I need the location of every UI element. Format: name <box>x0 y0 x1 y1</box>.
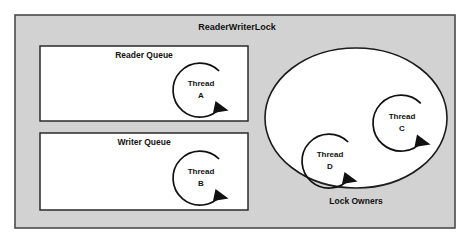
page-title: ReaderWriterLock <box>198 22 276 32</box>
reader-queue-label: Reader Queue <box>115 50 173 60</box>
thread-a-label-line1: Thread <box>188 79 215 88</box>
thread-c-label-line2: C <box>399 124 405 133</box>
diagram-canvas: ReaderWriterLock Reader Queue Thread A W… <box>0 0 470 241</box>
thread-d-label-line2: D <box>327 162 333 171</box>
thread-a-label-line2: A <box>198 91 204 100</box>
lock-owners-ellipse <box>265 48 447 188</box>
thread-c-label-line1: Thread <box>389 112 416 121</box>
readerwriterlock-diagram: ReaderWriterLock Reader Queue Thread A W… <box>0 0 470 241</box>
thread-d-label-line1: Thread <box>317 150 344 159</box>
lock-owners-label: Lock Owners <box>329 196 383 206</box>
thread-b-label-line2: B <box>198 179 204 188</box>
thread-b-label-line1: Thread <box>188 167 215 176</box>
writer-queue-label: Writer Queue <box>117 137 170 147</box>
